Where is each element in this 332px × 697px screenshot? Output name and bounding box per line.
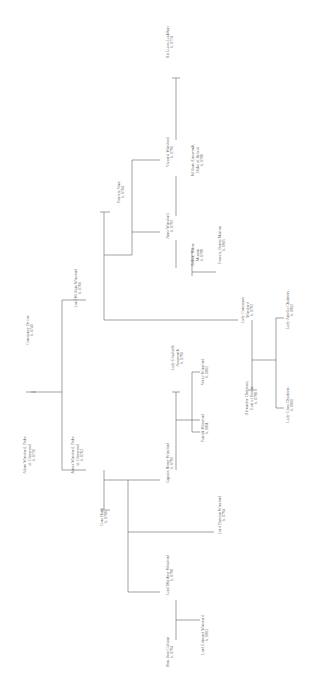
tree-node-edmund: Lord Edmund Winsfordb. 1812 [200, 615, 210, 655]
tree-node-constance: Constance Devonb. 1740 [25, 315, 35, 344]
node-birth-year: b. 1786 [255, 380, 260, 415]
tree-node-amelia: Lady Amelia Chalmersb. 1812 [285, 291, 295, 329]
node-birth-year: b. 1791 [181, 345, 186, 370]
node-birth-year: b. 1810 [290, 387, 295, 422]
tree-node-henry: Captain Henry Winsfordb. 1790 [165, 443, 175, 484]
node-birth-year: b. 1793 [170, 213, 175, 238]
node-birth-year: b. 1794 [222, 496, 227, 535]
tree-node-lucas: Sir Lucas Lockhartb. 1774 [165, 26, 175, 58]
node-birth-year: b. 1786 [201, 144, 206, 177]
node-birth-year: b. 1761 [78, 269, 83, 308]
tree-node-patricia: Patricia Vaneb. 1764 [116, 181, 126, 203]
tree-node-clara: Lady Clara Chalmersb. 1810 [285, 387, 295, 422]
edge-group [26, 78, 284, 640]
tree-node-james: James Winsford, Dukeof Glenwoodb. 1762 [70, 436, 85, 474]
tree-node-francis: Francis, Baron Murtonb. 1805 [217, 226, 227, 264]
node-birth-year: b. 1762 [81, 436, 86, 474]
tree-node-patrick: Patrick Winsfordb. 1811 [200, 414, 210, 442]
node-birth-year: b. 1789 [201, 243, 206, 266]
tree-node-arthur: Arthur, BaronMurtonb. 1789 [190, 243, 205, 266]
node-birth-year: b. 1730 [33, 436, 38, 474]
tree-node-victoria: Victoria Winsfordb. 1791 [165, 137, 175, 167]
node-birth-year: b. 1792 [251, 297, 256, 324]
tree-node-damian: Lord Damian Winsfordb. 1794 [217, 496, 227, 535]
tree-node-wmains: William Ainsworth,Duke of Bristolb. 1786 [190, 144, 205, 177]
node-birth-year: b. 1791 [170, 137, 175, 167]
node-birth-year: b. 1794 [170, 637, 175, 667]
tree-node-elizabeth: Lady ElizabethAinsworthb. 1791 [170, 345, 185, 370]
node-birth-year: b. 1811 [205, 414, 210, 442]
tree-node-william: Lord William Winsfordb. 1761 [73, 269, 83, 308]
node-birth-year: b. 1774 [170, 26, 175, 58]
node-birth-year: b. 1805 [222, 226, 227, 264]
tree-node-jane: Hon. Jane Colstonb. 1794 [165, 637, 175, 667]
tree-node-cora: Cora Hurstb. 1766 [99, 508, 109, 526]
node-birth-year: b. 1812 [205, 359, 210, 386]
tree-node-anne: Anne Winsfordb. 1793 [165, 213, 175, 238]
node-birth-year: b. 1812 [290, 291, 295, 329]
tree-node-lconst: Lady ConstanceWinsfordb. 1792 [240, 297, 255, 324]
tree-node-verity: Verity Winsfordb. 1812 [200, 359, 210, 386]
node-birth-year: b. 1812 [205, 615, 210, 655]
node-birth-year: b. 1790 [170, 443, 175, 484]
tree-node-alex: Alexander Chalmers,Earl of Suttonb. 1786 [244, 380, 259, 415]
node-birth-year: b. 1796 [170, 555, 175, 595]
node-birth-year: b. 1766 [104, 508, 109, 526]
family-tree-chart: Adam Winsford, Dukeof Glenwoodb. 1730Con… [0, 0, 332, 697]
node-birth-year: b. 1740 [30, 315, 35, 344]
tree-node-matthew: Lord Matthew Winsfordb. 1796 [165, 555, 175, 595]
node-birth-year: b. 1764 [121, 181, 126, 203]
tree-node-adam: Adam Winsford, Dukeof Glenwoodb. 1730 [22, 436, 37, 474]
